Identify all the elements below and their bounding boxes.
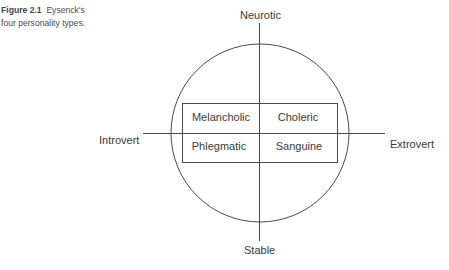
quadrant-choleric: Choleric <box>265 111 331 123</box>
axis-label-introvert: Introvert <box>99 134 139 146</box>
quadrant-sanguine: Sanguine <box>266 140 332 152</box>
quadrant-melancholic: Melancholic <box>188 111 254 123</box>
axis-label-stable: Stable <box>244 244 275 256</box>
personality-diagram <box>0 0 449 270</box>
axis-label-neurotic: Neurotic <box>240 9 281 21</box>
quadrant-phlegmatic: Phlegmatic <box>186 140 252 152</box>
axis-label-extrovert: Extrovert <box>390 138 434 150</box>
